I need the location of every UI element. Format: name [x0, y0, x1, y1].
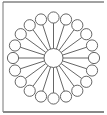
- outer-node-circle: [35, 14, 46, 25]
- outer-node-circle: [81, 76, 92, 87]
- hub-spoke-diagram: [0, 0, 107, 115]
- diagram-canvas: [0, 0, 107, 115]
- outer-node-circle: [24, 85, 35, 96]
- outer-node-circle: [72, 20, 83, 31]
- outer-node-circle: [60, 91, 71, 102]
- outer-node-circle: [88, 52, 99, 63]
- outer-node-circle: [24, 20, 35, 31]
- outer-node-circle: [60, 14, 71, 25]
- outer-node-circle: [48, 93, 59, 104]
- hub-circle: [44, 49, 63, 68]
- outer-node-circle: [86, 65, 97, 76]
- outer-node-circle: [35, 91, 46, 102]
- outer-node-circle: [7, 52, 18, 63]
- outer-node-circle: [9, 65, 20, 76]
- outer-node-circle: [9, 40, 20, 51]
- outer-node-circle: [48, 12, 59, 23]
- outer-node-circle: [81, 29, 92, 40]
- outer-node-circle: [72, 85, 83, 96]
- outer-node-circle: [15, 76, 26, 87]
- outer-node-circle: [86, 40, 97, 51]
- outer-node-circle: [15, 29, 26, 40]
